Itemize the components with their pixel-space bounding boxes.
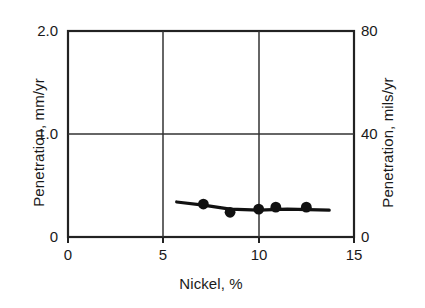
data-point-marker: [270, 202, 281, 213]
data-point-marker: [301, 202, 312, 213]
data-point-marker: [198, 199, 209, 210]
data-point-marker: [253, 204, 264, 215]
plot-area: [0, 0, 425, 308]
data-point-marker: [225, 207, 236, 218]
penetration-vs-nickel-chart: Penetration, mm/yr Penetration, mils/yr …: [0, 0, 425, 308]
